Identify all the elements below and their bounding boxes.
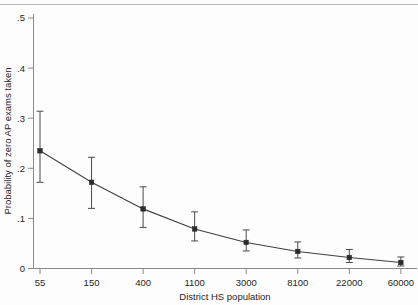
error-bar — [37, 111, 44, 182]
x-axis-ticks: 551504001100300081002200060000 — [35, 269, 414, 289]
y-tick-label: .2 — [17, 163, 25, 174]
y-axis-ticks: 0.1.2.3.4.5 — [17, 12, 33, 274]
x-axis-title: District HS population — [179, 291, 270, 302]
x-tick-label: 3000 — [236, 277, 257, 288]
chart-figure: 0.1.2.3.4.5 5515040011003000810022000600… — [0, 0, 418, 305]
chart-canvas: 0.1.2.3.4.5 5515040011003000810022000600… — [0, 0, 418, 305]
y-tick-label: 0 — [20, 263, 25, 274]
x-tick-label: 150 — [84, 277, 100, 288]
x-tick-label: 22000 — [336, 277, 362, 288]
series-line-probability — [40, 151, 401, 263]
error-bars-group — [37, 111, 405, 266]
x-tick-label: 8100 — [287, 277, 308, 288]
y-tick-label: .3 — [17, 113, 25, 124]
x-tick-label: 1100 — [184, 277, 204, 288]
data-point — [89, 180, 94, 185]
x-tick-label: 60000 — [388, 277, 414, 288]
y-tick-label: .4 — [17, 63, 25, 74]
data-point — [399, 260, 404, 265]
data-point-markers — [38, 148, 403, 264]
data-point — [192, 227, 197, 232]
data-point — [295, 249, 300, 254]
data-point — [38, 148, 43, 153]
y-tick-label: .5 — [17, 12, 25, 23]
data-point — [141, 207, 146, 212]
x-tick-label: 400 — [135, 277, 151, 288]
x-tick-label: 55 — [35, 277, 46, 288]
data-point — [347, 255, 352, 260]
y-tick-label: .1 — [17, 213, 25, 224]
data-point — [244, 240, 249, 245]
y-axis-title: Probability of zero AP exams taken — [2, 67, 13, 214]
